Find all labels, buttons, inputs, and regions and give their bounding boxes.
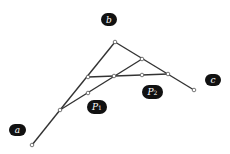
label-c: c (205, 74, 221, 86)
label-p2: P2 (142, 85, 163, 99)
label-b: b (101, 13, 117, 26)
label-p1: P1 (87, 100, 107, 114)
point-c (192, 88, 196, 92)
point-apex (113, 40, 117, 44)
point-a (30, 143, 34, 147)
label-a: a (9, 124, 26, 136)
